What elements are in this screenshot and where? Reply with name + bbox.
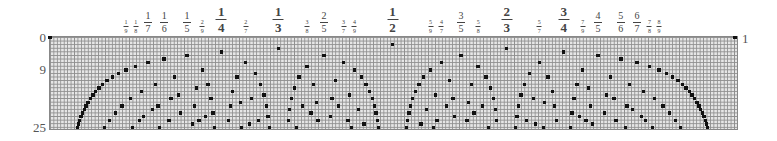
fraction-dot xyxy=(229,104,232,107)
fraction-dot xyxy=(105,79,108,82)
fraction-dot xyxy=(572,97,575,100)
denominator: 8 xyxy=(477,28,480,34)
numerator: 4 xyxy=(353,19,356,25)
fraction-dot xyxy=(570,111,573,114)
numerator: 1 xyxy=(275,5,282,18)
fraction-dot xyxy=(213,126,216,129)
fraction-dot xyxy=(494,108,497,111)
fraction-dot xyxy=(154,83,157,86)
fraction-dot xyxy=(114,111,117,114)
fraction-dot xyxy=(204,115,207,118)
numerator: 3 xyxy=(305,19,308,25)
fraction-dot xyxy=(250,97,253,100)
fraction-dot xyxy=(117,72,120,75)
fraction-dot xyxy=(411,97,414,100)
right-label-one: 1 xyxy=(742,32,749,45)
fraction-bar xyxy=(580,26,585,27)
fraction-dot xyxy=(407,111,410,114)
dot-grid xyxy=(49,36,738,130)
denominator: 7 xyxy=(440,28,443,34)
denominator: 7 xyxy=(635,24,640,34)
fraction-dot xyxy=(429,68,432,71)
fraction-dot xyxy=(357,108,360,111)
fraction-dot xyxy=(290,97,293,100)
fraction-dot xyxy=(481,104,484,107)
fraction-dot xyxy=(525,119,528,122)
fraction-dot xyxy=(528,72,531,75)
numerator: 1 xyxy=(145,11,150,21)
fraction-dot xyxy=(371,97,374,100)
fraction-dot xyxy=(108,119,111,122)
denominator: 2 xyxy=(389,21,396,34)
fraction-dot xyxy=(244,61,247,64)
numerator: 7 xyxy=(648,19,651,25)
fraction-dot xyxy=(409,104,412,107)
fraction-dot xyxy=(453,115,456,118)
fraction-dot xyxy=(495,119,498,122)
fraction-label-5-7: 57 xyxy=(537,19,542,34)
fraction-dot xyxy=(414,90,417,93)
fraction-dot xyxy=(195,86,198,89)
fraction-label-3-5: 35 xyxy=(457,11,465,34)
fraction-dot xyxy=(169,97,172,100)
fraction-dot xyxy=(337,104,340,107)
fraction-dot xyxy=(514,126,517,129)
fraction-dot xyxy=(134,65,137,68)
denominator: 5 xyxy=(459,24,464,34)
denominator: 8 xyxy=(648,28,651,34)
fraction-dot xyxy=(220,50,223,53)
fraction-dot xyxy=(562,50,565,53)
fraction-dot xyxy=(523,83,526,86)
fraction-dot xyxy=(425,108,428,111)
fraction-dot xyxy=(315,101,318,104)
fraction-dot xyxy=(231,90,234,93)
numerator: 1 xyxy=(134,19,137,25)
fraction-dot xyxy=(348,93,351,96)
fraction-dot xyxy=(581,68,584,71)
fraction-dot xyxy=(435,119,438,122)
fraction-dot xyxy=(589,104,592,107)
fraction-dot xyxy=(350,126,353,129)
numerator: 5 xyxy=(618,11,623,21)
fraction-bar xyxy=(647,26,652,27)
fraction-dot xyxy=(193,104,196,107)
fraction-label-3-7: 37 xyxy=(341,19,346,34)
fraction-dot xyxy=(334,79,337,82)
fraction-dot xyxy=(661,104,664,107)
fraction-dot xyxy=(542,126,545,129)
fraction-dot xyxy=(146,61,149,64)
fraction-dot xyxy=(309,111,312,114)
denominator: 3 xyxy=(275,21,282,34)
fraction-label-7-9: 79 xyxy=(580,19,585,34)
fraction-dot xyxy=(476,65,479,68)
fraction-dot xyxy=(653,97,656,100)
fraction-dot xyxy=(733,36,736,39)
fraction-dot xyxy=(301,104,304,107)
numerator: 1 xyxy=(218,5,225,18)
fraction-label-7-8: 78 xyxy=(647,19,652,34)
fraction-label-5-8: 58 xyxy=(476,19,481,34)
fraction-dot xyxy=(555,119,558,122)
fraction-dot xyxy=(305,65,308,68)
fraction-dot xyxy=(129,97,132,100)
fraction-dot xyxy=(364,83,367,86)
fraction-dot xyxy=(138,119,141,122)
denominator: 5 xyxy=(185,24,190,34)
fraction-dot xyxy=(538,61,541,64)
numerator: 4 xyxy=(596,11,601,21)
fraction-dot xyxy=(605,93,608,96)
fraction-bar xyxy=(133,26,138,27)
fraction-dot xyxy=(240,126,243,129)
numerator: 1 xyxy=(162,11,167,21)
fraction-dot xyxy=(405,126,408,129)
fraction-bar xyxy=(439,26,444,27)
numerator: 4 xyxy=(440,19,443,25)
fraction-dot xyxy=(268,126,271,129)
numerator: 5 xyxy=(477,19,480,25)
fraction-dot xyxy=(151,108,154,111)
denominator: 9 xyxy=(429,28,432,34)
fraction-label-1-6: 16 xyxy=(160,11,168,34)
numerator: 3 xyxy=(342,19,345,25)
fraction-dot xyxy=(432,126,435,129)
fraction-dot xyxy=(209,97,212,100)
